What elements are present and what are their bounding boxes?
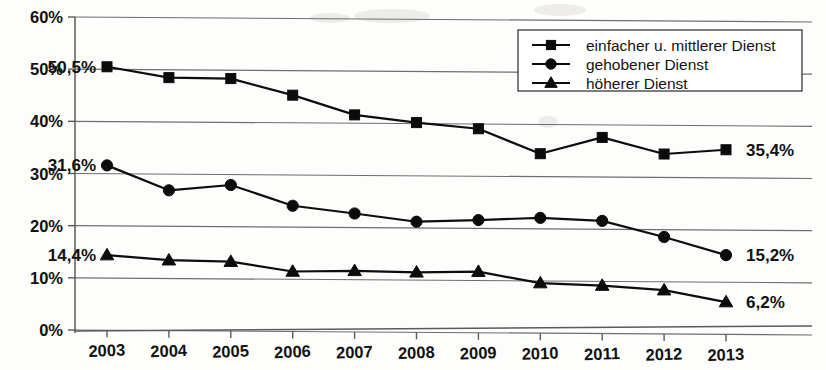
x-axis-label: 2012 xyxy=(645,344,682,363)
series-3 xyxy=(100,248,733,306)
x-axis-label: 2010 xyxy=(521,343,558,362)
marker-circle xyxy=(535,212,546,223)
gridline xyxy=(75,226,812,231)
x-axis-label: 2004 xyxy=(150,341,188,360)
legend-label: höherer Dienst xyxy=(586,75,688,92)
marker-circle xyxy=(546,59,556,69)
marker-square xyxy=(412,118,422,128)
series-line xyxy=(107,165,726,255)
marker-triangle xyxy=(100,248,114,260)
marker-square xyxy=(350,110,360,120)
marker-circle xyxy=(411,216,422,227)
x-axis-label: 2003 xyxy=(88,341,125,360)
gridline xyxy=(75,17,812,22)
x-axis-label: 2005 xyxy=(212,341,249,360)
x-axis-label: 2007 xyxy=(336,342,373,361)
marker-circle xyxy=(659,231,670,242)
gridline xyxy=(75,278,812,283)
start-value-label: 31,6% xyxy=(48,156,96,175)
marker-circle xyxy=(163,185,174,196)
chart-container: 0%10%20%30%40%50%60% 50,5%35,4%31,6%15,2… xyxy=(0,0,826,370)
marker-square xyxy=(597,132,607,142)
x-axis-label: 2013 xyxy=(707,345,744,364)
start-value-label: 14,4% xyxy=(48,246,96,265)
series-2 xyxy=(101,160,731,261)
x-axis-label: 2006 xyxy=(274,342,311,361)
marker-circle xyxy=(349,208,360,219)
marker-square xyxy=(546,40,555,49)
y-axis-label: 60% xyxy=(30,8,63,26)
marker-circle xyxy=(597,215,608,226)
x-axis-label: 2011 xyxy=(584,344,620,363)
chart-legend[interactable]: einfacher u. mittlerer Dienstgehobener D… xyxy=(518,30,802,92)
y-axis-label: 0% xyxy=(39,321,63,339)
marker-square xyxy=(226,74,236,84)
marker-square xyxy=(102,62,112,72)
marker-circle xyxy=(473,214,484,225)
marker-square xyxy=(721,145,731,155)
end-value-label: 35,4% xyxy=(746,141,794,160)
marker-circle xyxy=(720,250,731,261)
y-axis-label: 10% xyxy=(30,269,63,287)
end-value-label: 6,2% xyxy=(746,293,785,312)
x-axis-label: 2008 xyxy=(398,343,435,362)
marker-square xyxy=(535,149,545,159)
x-axis-label: 2009 xyxy=(459,343,496,362)
gridline xyxy=(75,174,812,179)
marker-square xyxy=(473,124,483,134)
end-value-label: 15,2% xyxy=(746,246,794,265)
marker-square xyxy=(288,90,298,100)
y-axis-label: 20% xyxy=(30,217,63,235)
marker-circle xyxy=(225,179,236,190)
x-axis-tick-labels: 2003200420052006200720082009201020112012… xyxy=(88,341,744,365)
line-chart: 0%10%20%30%40%50%60% 50,5%35,4%31,6%15,2… xyxy=(0,0,826,370)
legend-label: gehobener Dienst xyxy=(586,56,709,73)
y-axis-label: 40% xyxy=(30,112,63,130)
marker-circle xyxy=(287,200,298,211)
marker-square xyxy=(659,149,669,159)
marker-circle xyxy=(101,160,112,171)
legend-label: einfacher u. mittlerer Dienst xyxy=(586,37,776,54)
x-axis-line xyxy=(75,326,812,331)
start-value-label: 50,5% xyxy=(48,58,96,77)
series-layer xyxy=(100,62,733,307)
marker-square xyxy=(164,73,174,83)
